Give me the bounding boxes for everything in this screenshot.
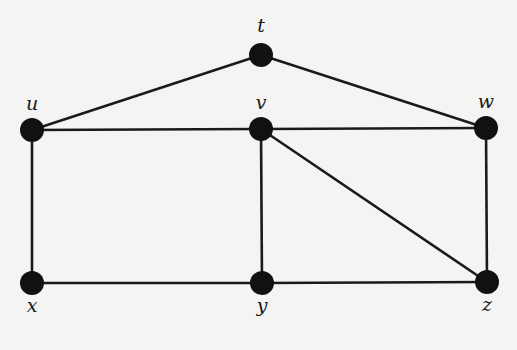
- graph-diagram: tuvwxyz: [0, 0, 517, 350]
- node-z: [475, 270, 499, 294]
- edges: [32, 55, 487, 283]
- edge-v-y: [261, 129, 262, 283]
- edge-t-w: [261, 55, 486, 128]
- node-u: [20, 118, 44, 142]
- edge-v-w: [261, 128, 486, 129]
- edge-v-z: [261, 129, 487, 282]
- nodes: [20, 43, 499, 295]
- node-label-y: y: [256, 294, 268, 316]
- node-label-v: v: [256, 91, 267, 113]
- node-label-t: t: [257, 14, 265, 36]
- node-y: [250, 271, 274, 295]
- node-w: [474, 116, 498, 140]
- node-label-x: x: [27, 294, 38, 316]
- node-label-z: z: [481, 293, 493, 315]
- node-t: [249, 43, 273, 67]
- edge-t-u: [32, 55, 261, 130]
- node-v: [249, 117, 273, 141]
- edge-y-z: [262, 282, 487, 283]
- node-x: [20, 271, 44, 295]
- edge-u-v: [32, 129, 261, 130]
- node-label-u: u: [26, 92, 38, 114]
- edge-w-z: [486, 128, 487, 282]
- node-label-w: w: [478, 90, 494, 112]
